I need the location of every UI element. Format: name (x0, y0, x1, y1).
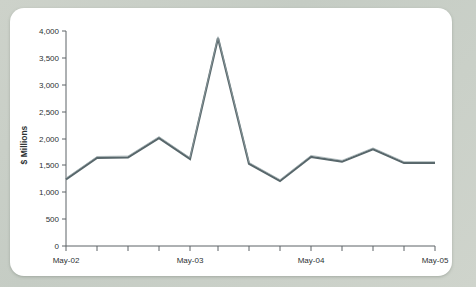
y-axis-ticks: 0 500 1,000 1,500 2,000 2,500 3,000 3,50… (39, 27, 66, 251)
line-chart-svg: $ Millions 0 500 1,000 1,500 2,000 2,500 (0, 0, 476, 287)
y-tick-label: 0 (55, 242, 60, 251)
data-series-line (66, 38, 435, 181)
x-tick-label: May-04 (298, 256, 325, 265)
y-tick-label: 3,000 (39, 81, 60, 90)
y-tick-label: 500 (46, 215, 60, 224)
chart-container: $ Millions 0 500 1,000 1,500 2,000 2,500 (0, 0, 476, 287)
y-axis-title: $ Millions (19, 125, 29, 164)
x-axis-labels: May-02 May-03 May-04 May-05 (53, 256, 449, 265)
x-axis-ticks (66, 246, 435, 251)
screenshot-page: $ Millions 0 500 1,000 1,500 2,000 2,500 (0, 0, 476, 287)
y-tick-label: 4,000 (39, 27, 60, 36)
x-tick-label: May-03 (177, 256, 204, 265)
data-series-group (66, 37, 435, 181)
x-tick-label: May-02 (53, 256, 80, 265)
y-tick-label: 2,000 (39, 135, 60, 144)
y-tick-label: 1,500 (39, 161, 60, 170)
y-tick-label: 3,500 (39, 54, 60, 63)
y-tick-label: 2,500 (39, 108, 60, 117)
x-tick-label: May-05 (422, 256, 449, 265)
y-tick-label: 1,000 (39, 188, 60, 197)
